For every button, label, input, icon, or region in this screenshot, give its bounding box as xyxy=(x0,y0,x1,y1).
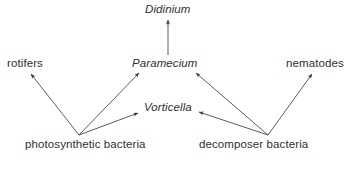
node-label-paramecium: Paramecium xyxy=(132,57,198,70)
node-label-decomposer-bacteria: decomposer bacteria xyxy=(199,138,308,151)
arrow-photosynthetic-bacteria-to-rotifers xyxy=(31,74,79,135)
node-label-vorticella: Vorticella xyxy=(144,101,192,114)
arrow-photosynthetic-bacteria-to-paramecium xyxy=(79,73,139,135)
food-web-diagram: Didinium rotifers Paramecium nematodes V… xyxy=(0,0,354,169)
node-label-didinium: Didinium xyxy=(145,3,191,16)
arrow-decomposer-bacteria-to-nematodes xyxy=(268,74,312,135)
node-label-rotifers: rotifers xyxy=(7,57,43,70)
arrow-photosynthetic-bacteria-to-vorticella xyxy=(79,113,138,135)
arrow-decomposer-bacteria-to-paramecium xyxy=(196,73,268,135)
arrow-decomposer-bacteria-to-vorticella xyxy=(199,112,268,135)
node-label-photosynthetic-bacteria: photosynthetic bacteria xyxy=(25,138,146,151)
node-label-nematodes: nematodes xyxy=(286,57,344,70)
